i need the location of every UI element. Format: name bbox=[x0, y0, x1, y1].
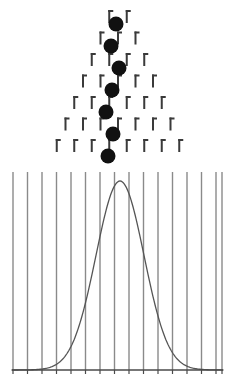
peg-cap bbox=[161, 96, 166, 98]
peg-cap bbox=[117, 118, 122, 120]
galton-board-canvas bbox=[0, 0, 235, 390]
peg-cap bbox=[135, 32, 140, 34]
peg-cap bbox=[143, 96, 148, 98]
peg-cap bbox=[135, 118, 140, 120]
peg-cap bbox=[152, 118, 157, 120]
peg-cap bbox=[170, 118, 175, 120]
peg-cap bbox=[82, 118, 87, 120]
galton-board-figure bbox=[0, 0, 235, 390]
peg-cap bbox=[56, 139, 61, 141]
peg-cap bbox=[73, 139, 78, 141]
ball-1 bbox=[104, 39, 119, 54]
ball-5 bbox=[106, 127, 121, 142]
peg-cap bbox=[73, 96, 78, 98]
ball-3 bbox=[105, 83, 120, 98]
figure-background bbox=[0, 0, 235, 390]
peg-cap bbox=[117, 32, 122, 34]
ball-2 bbox=[112, 61, 127, 76]
peg-cap bbox=[161, 139, 166, 141]
peg-cap bbox=[126, 53, 131, 55]
ball-0 bbox=[109, 17, 124, 32]
ball-4 bbox=[99, 105, 114, 120]
peg-cap bbox=[143, 53, 148, 55]
peg-cap bbox=[126, 139, 131, 141]
peg-cap bbox=[100, 32, 105, 34]
peg-cap bbox=[143, 139, 148, 141]
peg-cap bbox=[65, 118, 70, 120]
peg-cap bbox=[91, 53, 96, 55]
peg-cap bbox=[126, 10, 131, 12]
peg-cap bbox=[91, 96, 96, 98]
peg-cap bbox=[108, 10, 113, 12]
peg-cap bbox=[82, 75, 87, 77]
ball-6 bbox=[101, 149, 116, 164]
peg-cap bbox=[91, 139, 96, 141]
peg-cap bbox=[135, 75, 140, 77]
peg-cap bbox=[126, 96, 131, 98]
peg-cap bbox=[100, 75, 105, 77]
peg-cap bbox=[152, 75, 157, 77]
peg-cap bbox=[178, 139, 183, 141]
